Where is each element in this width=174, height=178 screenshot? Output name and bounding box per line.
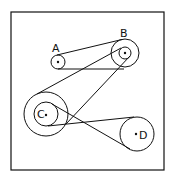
frame: [11, 12, 164, 170]
label-b: B: [120, 27, 128, 40]
label-c: C: [37, 108, 45, 121]
belt-pulley-diagram: A B C D: [0, 0, 174, 178]
pulley-a: [51, 55, 65, 69]
pulley-c: [24, 92, 68, 136]
label-d: D: [139, 129, 147, 142]
label-a: A: [52, 42, 60, 55]
belt-b-c: [37, 48, 130, 124]
belt-c-d: [48, 104, 134, 149]
pulley-b: [111, 39, 139, 67]
